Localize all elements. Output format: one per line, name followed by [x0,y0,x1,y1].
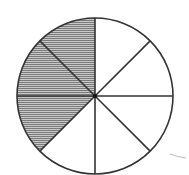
fraction-circle-diagram [0,0,189,175]
center-point [93,94,97,98]
stray-mark [170,154,186,158]
